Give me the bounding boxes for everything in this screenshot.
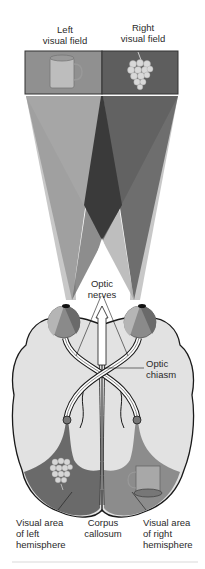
- label-line: visual field: [108, 33, 178, 44]
- label-line: visual field: [30, 35, 100, 46]
- right-eye-icon: [124, 304, 156, 338]
- center-arrow: [96, 306, 108, 365]
- label-line: nerves: [80, 289, 124, 300]
- label-line: Optic: [146, 358, 176, 369]
- label-line: Right: [108, 22, 178, 33]
- label-line: of right: [143, 528, 193, 539]
- label-line: of left: [16, 528, 66, 539]
- optic-chiasm-label: Optic chiasm: [146, 358, 176, 380]
- right-lgn: [133, 416, 141, 424]
- right-visual-area-label: Visual area of right hemisphere: [143, 517, 193, 550]
- label-line: Corpus: [80, 517, 126, 528]
- left-lgn: [63, 416, 71, 424]
- right-visual-field-label: Right visual field: [108, 22, 178, 44]
- label-line: hemisphere: [16, 539, 66, 550]
- left-eye-icon: [48, 304, 80, 338]
- left-visual-area-label: Visual area of left hemisphere: [16, 517, 66, 550]
- left-visual-field-label: Left visual field: [30, 24, 100, 46]
- label-line: Optic: [80, 278, 124, 289]
- label-line: Visual area: [143, 517, 193, 528]
- label-line: Left: [30, 24, 100, 35]
- label-line: chiasm: [146, 369, 176, 380]
- label-line: Visual area: [16, 517, 66, 528]
- optic-nerves-label: Optic nerves: [80, 278, 124, 300]
- label-line: hemisphere: [143, 539, 193, 550]
- label-line: callosum: [80, 528, 126, 539]
- corpus-callosum-label: Corpus callosum: [80, 517, 126, 539]
